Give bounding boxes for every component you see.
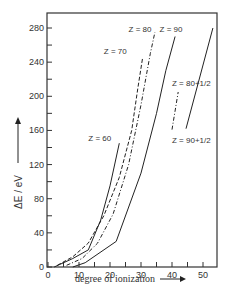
y-tick-label: 200	[29, 91, 44, 101]
series-label: Z = 80+1/2	[172, 79, 211, 88]
x-tick-label: 0	[45, 270, 50, 280]
y-tick-label: 40	[34, 228, 44, 238]
series-line	[172, 92, 178, 130]
axis-ticks: 0102030405004080120160200240280	[29, 23, 208, 280]
series-lines	[54, 28, 213, 267]
series-line	[54, 143, 119, 267]
y-tick-label: 0	[39, 262, 44, 272]
y-tick-label: 80	[34, 194, 44, 204]
y-tick-label: 120	[29, 160, 44, 170]
y-axis-label: ΔE / eV	[13, 175, 24, 209]
x-axis-label: degree of ionization	[75, 273, 155, 284]
y-tick-label: 280	[29, 23, 44, 33]
series-line	[73, 37, 175, 268]
series-label: Z = 90	[160, 25, 183, 34]
y-tick-label: 240	[29, 57, 44, 67]
series-line	[57, 58, 142, 265]
series-labels: Z = 60Z = 70Z = 80Z = 90Z = 80+1/2Z = 90…	[88, 25, 211, 145]
series-label: Z = 60	[88, 134, 111, 143]
series-label: Z = 80	[129, 25, 152, 34]
x-tick-label: 50	[198, 270, 208, 280]
series-line	[67, 32, 155, 265]
series-label: Z = 90+1/2	[172, 136, 211, 145]
chart: 0102030405004080120160200240280 Z = 60Z …	[0, 0, 227, 289]
series-label: Z = 70	[104, 47, 127, 56]
y-axis-arrow-icon	[15, 117, 21, 163]
y-tick-label: 160	[29, 125, 44, 135]
